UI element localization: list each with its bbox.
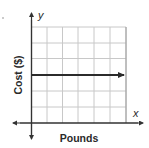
x-axis-title: Pounds — [60, 132, 99, 144]
stray-dot — [2, 17, 4, 19]
y-axis-title: Cost ($) — [12, 55, 24, 94]
y-axis-letter: y — [37, 9, 45, 21]
x-axis-letter: x — [132, 107, 139, 119]
cost-vs-pounds-chart: y x Pounds Cost ($) — [0, 0, 149, 148]
